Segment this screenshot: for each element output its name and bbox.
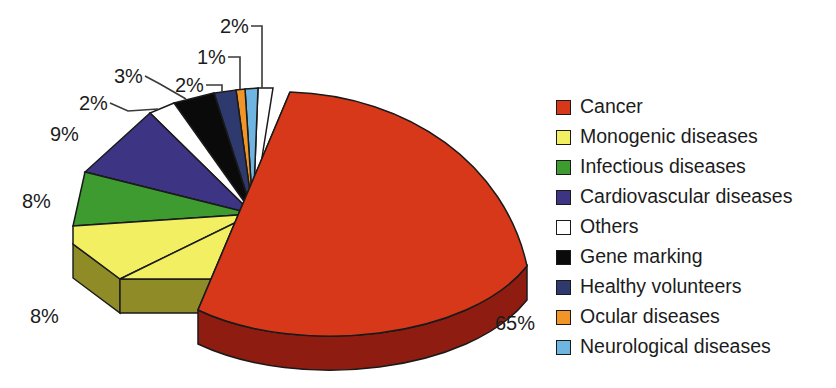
- legend-item-others[interactable]: Others: [556, 212, 836, 242]
- legend-item-monogenic-diseases[interactable]: Monogenic diseases: [556, 122, 836, 152]
- legend-swatch-cardiovascular-diseases: [556, 190, 571, 205]
- legend-item-ocular-diseases[interactable]: Ocular diseases: [556, 302, 836, 332]
- legend-label-others: Others: [580, 217, 639, 237]
- legend-item-cancer[interactable]: Cancer: [556, 92, 836, 122]
- legend-swatch-others: [556, 220, 571, 235]
- pie-chart-area: 65% 8% 8% 9% 2% 3% 2% 1% 2%: [0, 0, 556, 388]
- leader-healthy-volunteers: [206, 85, 222, 92]
- legend-label-ocular-diseases: Ocular diseases: [580, 307, 720, 327]
- legend-swatch-neurological-diseases: [556, 340, 571, 355]
- label-ocular-pct: 1%: [197, 46, 226, 68]
- label-neurological-pct: 2%: [220, 15, 249, 37]
- legend-label-healthy-volunteers: Healthy volunteers: [580, 277, 742, 297]
- label-healthy-volunteers-pct: 2%: [175, 74, 204, 96]
- label-cancer-pct: 65%: [495, 312, 535, 334]
- legend-swatch-ocular-diseases: [556, 310, 571, 325]
- legend-label-infectious-diseases: Infectious diseases: [580, 157, 746, 177]
- legend-label-neurological-diseases: Neurological diseases: [580, 337, 771, 357]
- leader-others: [110, 103, 158, 111]
- legend-swatch-healthy-volunteers: [556, 280, 571, 295]
- label-cardiovascular-pct: 9%: [50, 123, 79, 145]
- legend-item-neurological-diseases[interactable]: Neurological diseases: [556, 332, 836, 362]
- legend-swatch-monogenic-diseases: [556, 130, 571, 145]
- leader-ocular: [228, 57, 240, 89]
- legend-item-infectious-diseases[interactable]: Infectious diseases: [556, 152, 836, 182]
- label-infectious-pct: 8%: [22, 190, 51, 212]
- legend-label-cancer: Cancer: [580, 97, 643, 117]
- legend-label-monogenic-diseases: Monogenic diseases: [580, 127, 758, 147]
- legend-swatch-infectious-diseases: [556, 160, 571, 175]
- label-others-pct: 2%: [79, 92, 108, 114]
- pie-chart-svg: 65% 8% 8% 9% 2% 3% 2% 1% 2%: [0, 0, 556, 388]
- legend-label-gene-marking: Gene marking: [580, 247, 702, 267]
- legend-label-cardiovascular-diseases: Cardiovascular diseases: [580, 187, 792, 207]
- chart-legend: Cancer Monogenic diseases Infectious dis…: [556, 92, 836, 362]
- legend-item-healthy-volunteers[interactable]: Healthy volunteers: [556, 272, 836, 302]
- legend-swatch-cancer: [556, 100, 571, 115]
- label-monogenic-pct: 8%: [30, 305, 59, 327]
- label-gene-marking-pct: 3%: [114, 65, 143, 87]
- leader-neurological: [251, 26, 262, 88]
- legend-item-gene-marking[interactable]: Gene marking: [556, 242, 836, 272]
- legend-swatch-gene-marking: [556, 250, 571, 265]
- pie-chart-figure: 65% 8% 8% 9% 2% 3% 2% 1% 2% Cancer Monog…: [0, 0, 836, 388]
- legend-item-cardiovascular-diseases[interactable]: Cardiovascular diseases: [556, 182, 836, 212]
